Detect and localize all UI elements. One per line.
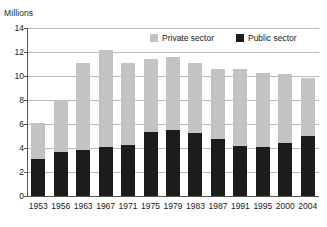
bar-segment-private-sector[interactable]: [76, 63, 90, 149]
bar-segment-private-sector[interactable]: [121, 63, 135, 145]
bar-segment-private-sector[interactable]: [144, 59, 158, 132]
bar-group[interactable]: [76, 28, 90, 196]
x-axis-tick-label: 1975: [141, 201, 160, 211]
x-axis-tick-label: 2000: [276, 201, 295, 211]
bar-group[interactable]: [31, 28, 45, 196]
bar-group[interactable]: [278, 28, 292, 196]
y-axis-tick-label: 2: [2, 167, 24, 177]
bar-segment-public-sector[interactable]: [76, 150, 90, 196]
bar-segment-private-sector[interactable]: [166, 57, 180, 130]
bar-segment-public-sector[interactable]: [166, 130, 180, 196]
y-axis-tick-label: 10: [2, 71, 24, 81]
plot-area: [27, 28, 319, 196]
x-axis-tick-label: 1983: [186, 201, 205, 211]
x-axis-tick-label: 1979: [164, 201, 183, 211]
legend-swatch-icon: [236, 34, 244, 42]
stacked-bar-chart: Millions 02468101214 1953195619631967197…: [0, 0, 327, 227]
legend-item-label: Private sector: [162, 33, 214, 43]
bar-segment-private-sector[interactable]: [256, 73, 270, 147]
bar-group[interactable]: [166, 28, 180, 196]
bar-segment-private-sector[interactable]: [99, 50, 113, 147]
y-axis-tick-label: 6: [2, 119, 24, 129]
bar-segment-private-sector[interactable]: [211, 69, 225, 139]
bar-group[interactable]: [301, 28, 315, 196]
y-axis-tick-label: 0: [2, 191, 24, 201]
legend-item-public[interactable]: Public sector: [236, 33, 297, 43]
y-axis-tick-label: 12: [2, 47, 24, 57]
bar-group[interactable]: [144, 28, 158, 196]
x-axis-line: [27, 196, 319, 197]
bar-group[interactable]: [188, 28, 202, 196]
chart-legend: Private sectorPublic sector: [150, 33, 297, 43]
x-axis-tick-label: 1953: [29, 201, 48, 211]
legend-swatch-icon: [150, 34, 158, 42]
bar-segment-public-sector[interactable]: [188, 133, 202, 196]
bar-segment-private-sector[interactable]: [54, 100, 68, 152]
x-axis-tick-label: 1987: [208, 201, 227, 211]
y-axis-tick-labels: 02468101214: [0, 0, 24, 227]
bar-segment-public-sector[interactable]: [99, 147, 113, 196]
bar-segment-public-sector[interactable]: [278, 143, 292, 196]
x-axis-tick-label: 1995: [253, 201, 272, 211]
x-axis-tick-label: 1956: [51, 201, 70, 211]
bar-segment-private-sector[interactable]: [188, 63, 202, 133]
bar-segment-public-sector[interactable]: [233, 146, 247, 196]
legend-item-private[interactable]: Private sector: [150, 33, 214, 43]
bar-segment-public-sector[interactable]: [144, 132, 158, 196]
bar-group[interactable]: [256, 28, 270, 196]
bar-group[interactable]: [233, 28, 247, 196]
x-axis-tick-label: 1991: [231, 201, 250, 211]
bar-group[interactable]: [211, 28, 225, 196]
bar-segment-public-sector[interactable]: [301, 136, 315, 196]
y-axis-tick-label: 8: [2, 95, 24, 105]
bar-group[interactable]: [121, 28, 135, 196]
bar-group[interactable]: [99, 28, 113, 196]
bar-segment-public-sector[interactable]: [54, 152, 68, 196]
x-axis-tick-label: 1967: [96, 201, 115, 211]
bar-segment-private-sector[interactable]: [301, 78, 315, 136]
y-axis-tick-mark: [24, 196, 27, 197]
x-axis-tick-label: 1971: [119, 201, 138, 211]
y-axis-tick-label: 4: [2, 143, 24, 153]
bar-segment-private-sector[interactable]: [233, 69, 247, 146]
bar-segment-private-sector[interactable]: [31, 123, 45, 159]
bar-group[interactable]: [54, 28, 68, 196]
x-axis-tick-label: 2004: [298, 201, 317, 211]
bar-segment-public-sector[interactable]: [121, 145, 135, 196]
legend-item-label: Public sector: [248, 33, 297, 43]
y-axis-tick-label: 14: [2, 23, 24, 33]
bar-segment-private-sector[interactable]: [278, 74, 292, 142]
bar-segment-public-sector[interactable]: [256, 147, 270, 196]
bar-segment-public-sector[interactable]: [31, 159, 45, 196]
bar-segment-public-sector[interactable]: [211, 139, 225, 196]
x-axis-tick-label: 1963: [74, 201, 93, 211]
